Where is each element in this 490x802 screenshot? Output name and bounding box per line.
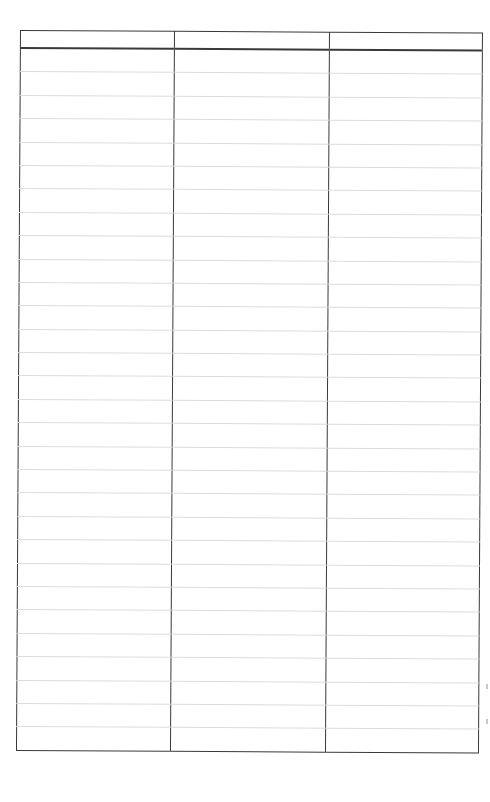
table-cell: [327, 518, 480, 542]
table-cell: [19, 329, 173, 353]
table-row: [19, 189, 481, 215]
table-cell: [328, 261, 481, 285]
table-cell: [172, 517, 327, 541]
table-cell: [17, 703, 171, 727]
table-row: [19, 353, 481, 379]
table-cell: [325, 729, 478, 753]
scan-artifact: [486, 684, 488, 689]
table-row: [20, 48, 482, 74]
table-cell: [327, 541, 480, 565]
table-cell: [18, 493, 172, 517]
table-cell: [20, 95, 174, 119]
table-row: [20, 72, 482, 98]
column-header-1: [20, 31, 174, 49]
table-row: [19, 329, 481, 355]
table-cell: [17, 586, 171, 610]
table-cell: [19, 236, 173, 260]
table-row: [20, 95, 482, 121]
table-cell: [174, 49, 329, 74]
table-cell: [173, 190, 328, 214]
table-cell: [18, 423, 172, 447]
table-cell: [172, 424, 327, 448]
table-cell: [327, 471, 480, 495]
table-cell: [173, 236, 328, 260]
table-cell: [20, 142, 174, 166]
table-cell: [18, 516, 172, 540]
table-row: [20, 165, 482, 191]
column-header-3: [329, 32, 482, 50]
table-cell: [326, 612, 479, 636]
table-cell: [19, 353, 173, 377]
table-row: [19, 259, 481, 285]
table-cell: [329, 97, 482, 121]
table-row: [18, 493, 480, 519]
table-cell: [328, 284, 481, 308]
table-cell: [172, 377, 327, 401]
table-cell: [18, 540, 172, 564]
table-cell: [171, 658, 326, 682]
table-cell: [19, 282, 173, 306]
table-cell: [328, 331, 481, 355]
table-cell: [329, 144, 482, 168]
table-cell: [171, 587, 326, 611]
table-cell: [171, 704, 326, 728]
table-cell: [171, 564, 326, 588]
table-cell: [173, 307, 328, 331]
table-cell: [19, 189, 173, 213]
table-cell: [329, 167, 482, 191]
table-cell: [17, 633, 171, 657]
table-cell: [17, 680, 171, 704]
table-row: [16, 727, 478, 753]
table-row: [17, 563, 479, 589]
table-cell: [174, 96, 329, 120]
table-cell: [173, 283, 328, 307]
table-row: [20, 142, 482, 168]
table-cell: [172, 494, 327, 518]
table-cell: [174, 166, 329, 190]
table-cell: [19, 259, 173, 283]
table-cell: [329, 120, 482, 144]
table-cell: [327, 424, 480, 448]
table-row: [18, 516, 480, 542]
table-cell: [19, 306, 173, 330]
table-cell: [18, 470, 172, 494]
table-row: [18, 376, 480, 402]
table-cell: [329, 74, 482, 98]
table-cell: [327, 401, 480, 425]
table-cell: [18, 446, 172, 470]
table-cell: [328, 354, 481, 378]
table-cell: [170, 728, 325, 752]
table-cell: [174, 73, 329, 97]
table-cell: [18, 376, 172, 400]
table-cell: [171, 634, 326, 658]
table-cell: [172, 470, 327, 494]
table-cell: [329, 50, 482, 75]
table-cell: [16, 727, 170, 751]
ruled-table-sheet: [16, 30, 482, 757]
table-row: [19, 236, 481, 262]
table-cell: [173, 330, 328, 354]
table-cell: [17, 563, 171, 587]
table-row: [18, 540, 480, 566]
table-cell: [328, 191, 481, 215]
table-row: [17, 680, 479, 706]
table-row: [18, 470, 480, 496]
table-cell: [328, 308, 481, 332]
table-cell: [326, 588, 479, 612]
table-cell: [174, 143, 329, 167]
table-cell: [326, 635, 479, 659]
table-row: [19, 306, 481, 332]
table-cell: [326, 682, 479, 706]
table-cell: [327, 448, 480, 472]
table-cell: [20, 48, 174, 73]
table-row: [18, 423, 480, 449]
blank-table: [16, 30, 483, 753]
table-row: [20, 119, 482, 145]
table-row: [18, 399, 480, 425]
table-cell: [18, 399, 172, 423]
table-cell: [17, 610, 171, 634]
table-cell: [17, 657, 171, 681]
table-row: [17, 657, 479, 683]
table-cell: [328, 237, 481, 261]
table-cell: [172, 541, 327, 565]
